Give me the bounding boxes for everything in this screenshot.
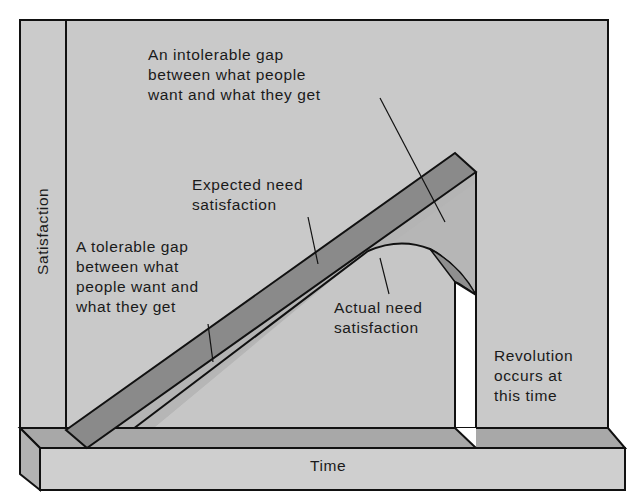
- revolution-slot: [455, 282, 476, 448]
- x-axis-label: Time: [310, 456, 346, 476]
- intolerable-gap-label: An intolerable gap between what people w…: [148, 45, 321, 105]
- expected-need-label: Expected need satisfaction: [192, 175, 303, 215]
- actual-need-label: Actual need satisfaction: [334, 298, 422, 338]
- revolution-label: Revolution occurs at this time: [494, 346, 573, 406]
- y-axis-label: Satisfaction: [34, 188, 52, 275]
- tolerable-gap-label: A tolerable gap between what people want…: [76, 237, 199, 317]
- j-curve-diagram: Satisfaction Time An intolerable gap bet…: [0, 0, 640, 503]
